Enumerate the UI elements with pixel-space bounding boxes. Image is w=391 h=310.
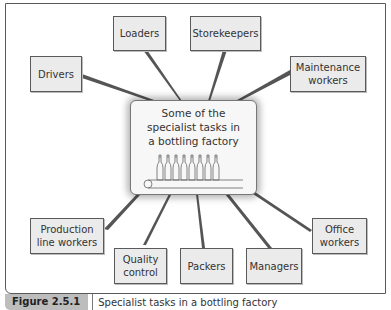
node-label: Drivers xyxy=(38,68,74,81)
node-maintenance-workers: Maintenance workers xyxy=(290,56,366,92)
center-title-line1: Some of the xyxy=(131,106,256,120)
node-label-line2: line workers xyxy=(37,236,98,249)
node-label-line1: Maintenance xyxy=(296,61,360,74)
node-label-line1: Quality xyxy=(123,253,159,266)
node-packers: Packers xyxy=(180,248,233,284)
caption-text: Specialist tasks in a bottling factory xyxy=(98,297,277,308)
node-loaders: Loaders xyxy=(113,16,166,51)
node-storekeepers: Storekeepers xyxy=(190,16,261,51)
node-drivers: Drivers xyxy=(30,56,82,92)
node-label: Managers xyxy=(249,260,298,273)
center-node: Some of the specialist tasks in a bottli… xyxy=(130,100,257,195)
node-label-line2: control xyxy=(123,266,158,279)
node-label-line2: workers xyxy=(308,74,347,87)
figure-caption: Figure 2.5.1 Specialist tasks in a bottl… xyxy=(5,294,277,310)
caption-divider xyxy=(92,294,93,310)
node-office-workers: Office workers xyxy=(312,218,367,254)
node-quality-control: Quality control xyxy=(114,248,167,284)
node-label-line1: Production xyxy=(40,223,93,236)
figure-label: Figure 2.5.1 xyxy=(5,294,88,310)
node-label-line2: workers xyxy=(320,236,359,249)
bottles-on-conveyor-icon xyxy=(139,150,249,192)
node-label-line1: Office xyxy=(325,223,354,236)
node-label: Loaders xyxy=(120,27,159,40)
node-managers: Managers xyxy=(246,248,302,284)
center-title-line2: specialist tasks in xyxy=(131,120,256,134)
node-label: Packers xyxy=(187,260,225,273)
center-title-line3: a bottling factory xyxy=(131,134,256,148)
node-label: Storekeepers xyxy=(193,27,259,40)
node-production-line-workers: Production line workers xyxy=(30,218,104,254)
